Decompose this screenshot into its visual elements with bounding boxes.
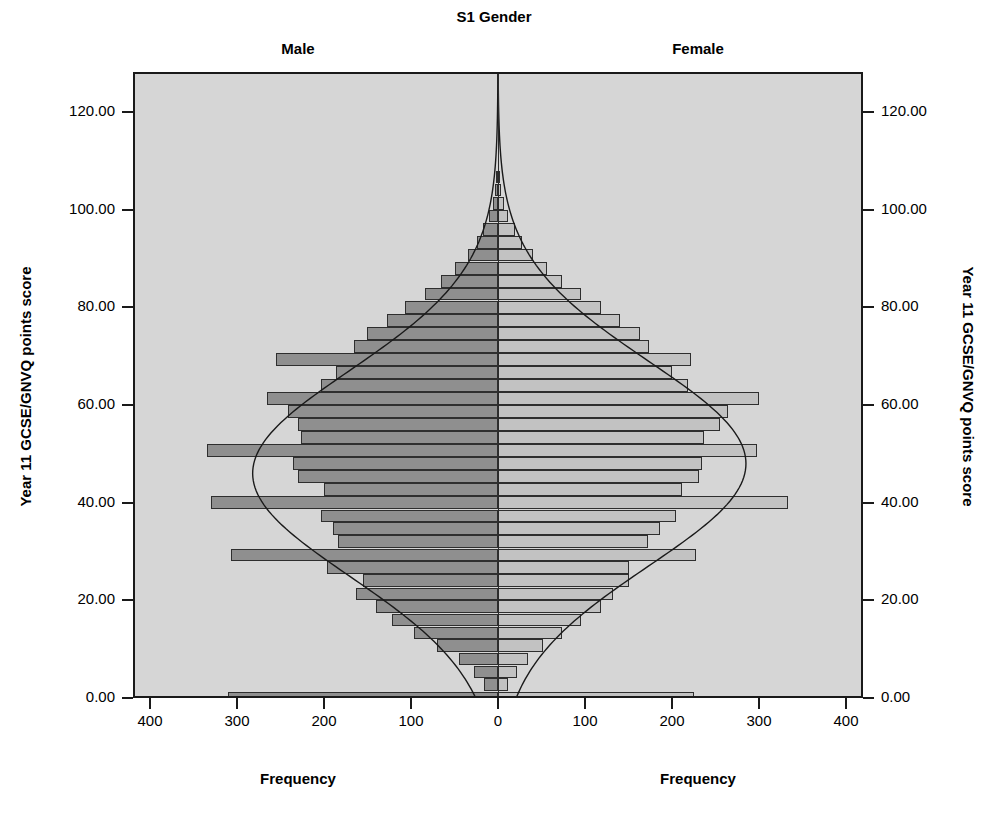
bar-male-5 (414, 627, 498, 640)
bar-female-8 (498, 588, 613, 601)
bar-female-26 (498, 353, 691, 366)
x-tick-label-male-1: 300 (207, 712, 267, 729)
bar-male-27 (354, 340, 498, 353)
chart-root: S1 Gender Male Female 0.000.0020.0020.00… (0, 0, 988, 825)
bar-female-29 (498, 314, 620, 327)
bar-female-19 (498, 444, 757, 457)
bar-male-9 (363, 574, 498, 587)
x-axis-title-male: Frequency (223, 770, 373, 787)
x-tick-male-2 (323, 698, 325, 709)
x-tick-male-4 (497, 698, 499, 709)
bar-female-13 (498, 522, 660, 535)
bar-male-1 (484, 678, 498, 691)
bar-female-30 (498, 301, 601, 314)
x-tick-label-female-1: 100 (555, 712, 615, 729)
x-tick-label-male-2: 200 (294, 712, 354, 729)
x-tick-female-4 (845, 698, 847, 709)
bar-female-3 (498, 653, 528, 666)
plot-inner (135, 74, 861, 696)
bar-male-11 (231, 549, 498, 562)
y-tick-left-6 (122, 111, 133, 113)
y-axis-title-left: Year 11 GCSE/GNVQ points score (17, 77, 34, 697)
x-tick-male-0 (149, 698, 151, 709)
x-tick-male-3 (410, 698, 412, 709)
x-tick-female-2 (671, 698, 673, 709)
bar-female-25 (498, 366, 672, 379)
bar-male-4 (437, 639, 498, 652)
x-tick-female-1 (584, 698, 586, 709)
x-axis-title-female: Frequency (623, 770, 773, 787)
bar-female-16 (498, 483, 682, 496)
y-tick-right-0 (863, 697, 874, 699)
x-tick-male-1 (236, 698, 238, 709)
bar-male-24 (321, 379, 498, 392)
panel-heading-female: Female (633, 40, 763, 57)
y-tick-right-1 (863, 599, 874, 601)
bar-male-10 (327, 561, 498, 574)
bar-male-34 (468, 249, 498, 262)
bar-female-5 (498, 627, 562, 640)
bar-male-31 (425, 288, 498, 301)
y-tick-right-3 (863, 404, 874, 406)
bar-female-21 (498, 418, 720, 431)
bar-male-35 (477, 236, 498, 249)
bar-male-21 (298, 418, 498, 431)
bar-female-6 (498, 614, 581, 627)
bar-male-15 (211, 496, 498, 509)
x-tick-label-female-2: 200 (642, 712, 702, 729)
y-tick-left-4 (122, 306, 133, 308)
y-tick-left-0 (122, 697, 133, 699)
center-axis-line (498, 74, 499, 696)
bar-male-28 (367, 327, 498, 340)
bar-female-36 (498, 223, 515, 236)
y-tick-label-left-1: 20.00 (23, 590, 115, 607)
bar-female-35 (498, 236, 522, 249)
bar-female-12 (498, 535, 648, 548)
bar-female-7 (498, 600, 601, 613)
bar-male-12 (338, 535, 498, 548)
bar-male-23 (267, 392, 498, 405)
bar-male-7 (376, 600, 498, 613)
bar-female-27 (498, 340, 649, 353)
bar-female-14 (498, 510, 676, 523)
bar-male-17 (298, 470, 498, 483)
bar-female-15 (498, 496, 788, 509)
bar-female-22 (498, 405, 728, 418)
bar-female-9 (498, 574, 629, 587)
panel-heading-male: Male (233, 40, 363, 57)
bar-female-18 (498, 457, 702, 470)
bar-female-32 (498, 275, 562, 288)
bar-male-36 (483, 223, 498, 236)
bar-female-37 (498, 210, 508, 223)
bar-male-29 (387, 314, 498, 327)
x-tick-label-male-3: 100 (381, 712, 441, 729)
bar-male-2 (474, 666, 498, 679)
bar-female-31 (498, 288, 581, 301)
y-tick-label-left-6: 120.00 (23, 102, 115, 119)
bar-male-32 (441, 275, 498, 288)
y-tick-left-3 (122, 404, 133, 406)
y-tick-left-5 (122, 209, 133, 211)
bar-female-10 (498, 561, 629, 574)
y-tick-right-4 (863, 306, 874, 308)
x-tick-label-female-3: 300 (729, 712, 789, 729)
y-tick-left-2 (122, 502, 133, 504)
y-tick-label-left-2: 40.00 (23, 493, 115, 510)
bar-male-26 (276, 353, 498, 366)
bar-male-18 (293, 457, 498, 470)
y-tick-right-2 (863, 502, 874, 504)
bar-male-3 (459, 653, 498, 666)
bar-male-33 (455, 262, 499, 275)
y-tick-left-1 (122, 599, 133, 601)
bar-female-1 (498, 678, 508, 691)
bar-male-37 (489, 210, 498, 223)
bar-male-0 (228, 692, 498, 698)
x-tick-label-female-4: 400 (816, 712, 876, 729)
y-tick-right-6 (863, 111, 874, 113)
x-tick-label-male-4: 0 (468, 712, 528, 729)
bar-male-14 (321, 510, 498, 523)
y-tick-label-left-4: 80.00 (23, 297, 115, 314)
bar-female-17 (498, 470, 699, 483)
bar-male-22 (288, 405, 498, 418)
y-tick-label-left-0: 0.00 (23, 688, 115, 705)
